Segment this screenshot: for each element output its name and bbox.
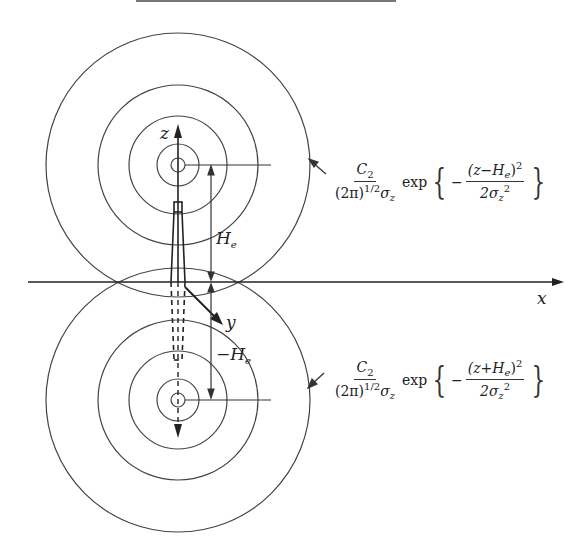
upper-formula-pointer <box>309 159 326 174</box>
x-axis-label: x <box>537 290 547 307</box>
plume-image-source-diagram <box>0 0 582 554</box>
neg-height-dimension <box>208 284 214 398</box>
lower-coefficient: C2 (2π)1/2σz <box>333 359 397 401</box>
upper-source-formula: C2 (2π)1/2σz exp { − (z−He)2 2σz2 } <box>330 160 550 204</box>
lower-formula-pointer <box>308 373 324 388</box>
upper-exponent: (z−He)2 2σz2 <box>466 160 525 204</box>
y-axis <box>185 287 223 325</box>
height-label: He <box>216 230 237 250</box>
x-axis <box>28 278 564 286</box>
neg-height-label: −He <box>216 346 251 366</box>
upper-coefficient: C2 (2π)1/2σz <box>333 161 397 203</box>
z-axis <box>174 124 182 282</box>
lower-source-formula: C2 (2π)1/2σz exp { − (z+He)2 2σz2 } <box>330 358 550 402</box>
height-dimension <box>208 166 214 280</box>
lower-exponent: (z+He)2 2σz2 <box>466 358 525 402</box>
y-axis-label: y <box>226 314 236 331</box>
z-axis-label: z <box>160 125 169 142</box>
